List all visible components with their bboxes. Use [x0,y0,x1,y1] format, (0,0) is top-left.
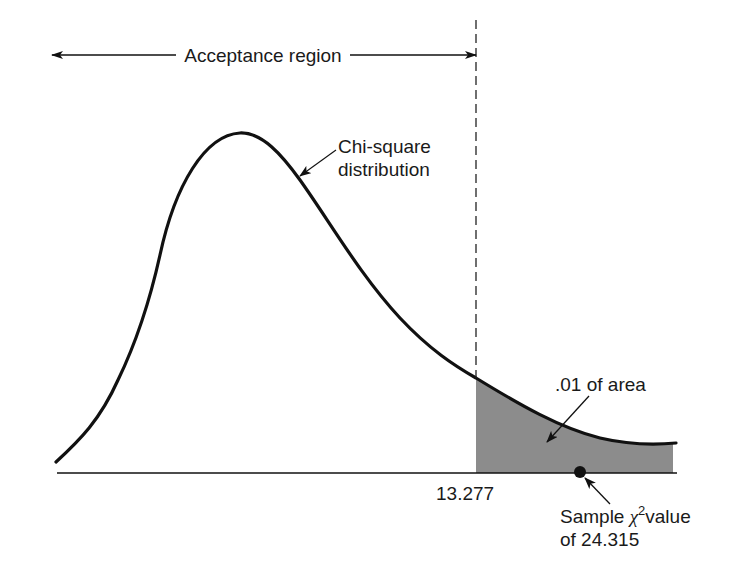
sample-label-line2: of 24.315 [560,529,639,550]
chi-square-diagram: Acceptance region Chi-square distributio… [0,0,738,576]
curve-label-line1: Chi-square [338,136,431,157]
acceptance-region-label: Acceptance region [184,45,341,66]
curve-label-line2: distribution [338,159,430,180]
area-label: .01 of area [555,374,646,395]
chi-square-curve [56,133,676,462]
sample-prefix: Sample [560,506,630,527]
critical-value-label: 13.277 [436,483,494,504]
curve-label-pointer [300,150,336,176]
chi-symbol: χ [628,506,639,527]
chi-superscript: 2 [638,503,645,518]
sample-suffix: value [645,506,690,527]
sample-statistic-dot [574,466,586,478]
sample-label-pointer [585,478,610,504]
sample-label-line1: Sample χ2value [560,503,691,527]
